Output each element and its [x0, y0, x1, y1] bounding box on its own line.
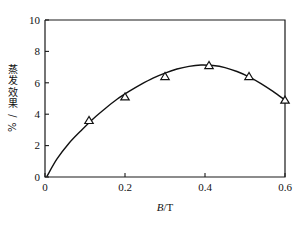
y-axis-title-char: 蒸 [8, 64, 18, 75]
evaporation-efficiency-chart: 00.20.40.6 0246810 B/T 蒸发效果/% [0, 0, 302, 225]
y-axis-title-char: 果 [8, 98, 18, 109]
x-tick-label: 0.6 [278, 181, 292, 193]
y-axis-title-char: 发 [8, 74, 18, 86]
y-tick-label: 6 [35, 77, 41, 89]
y-axis-title-char: 效 [8, 86, 18, 98]
y-axis-title-char: % [7, 122, 18, 132]
x-tick-label: 0.4 [198, 181, 212, 193]
x-axis-title-unit: /T [163, 201, 173, 213]
chart-canvas: 00.20.40.6 0246810 B/T 蒸发效果/% [0, 0, 302, 225]
svg-text:B/T: B/T [157, 201, 174, 213]
x-tick-label: 0 [42, 181, 48, 193]
y-tick-label: 8 [35, 45, 41, 57]
y-tick-label: 4 [35, 108, 41, 120]
x-axis-title: B/T [157, 201, 174, 213]
y-tick-label: 10 [29, 14, 41, 26]
y-tick-label: 0 [35, 171, 41, 183]
x-tick-label: 0.2 [118, 181, 132, 193]
y-tick-label: 2 [35, 139, 41, 151]
